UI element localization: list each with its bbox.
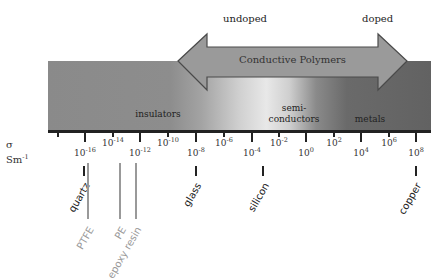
conductivity-axis (48, 130, 431, 133)
material-stem (135, 163, 137, 219)
tick-label: 104 (353, 146, 369, 158)
arrow-title: Conductive Polymers (207, 54, 378, 65)
tick-label: 10-10 (157, 136, 179, 148)
axis-tick (415, 132, 417, 142)
region-metals: metals (340, 114, 400, 125)
undoped-label: undoped (223, 13, 267, 24)
tick-label: 106 (381, 136, 397, 148)
tick-label: 10-12 (129, 146, 151, 158)
units-exp: -1 (22, 153, 28, 161)
axis-tick (57, 132, 59, 137)
material-stem (195, 166, 197, 176)
sigma-symbol: σ (6, 139, 13, 150)
region-semi-top: semi- (254, 103, 334, 114)
tick-label: 10-4 (243, 146, 261, 158)
axis-tick (305, 132, 307, 142)
tick-label: 10-16 (74, 146, 96, 158)
material-stem (83, 166, 85, 176)
axis-tick (84, 132, 86, 142)
axis-tick (251, 132, 253, 142)
material-stem (119, 163, 121, 219)
material-stem (87, 163, 89, 219)
units-base: Sm (6, 154, 22, 165)
axis-tick (195, 132, 197, 142)
region-semi-bottom: conductors (254, 114, 334, 125)
doped-label: doped (362, 13, 393, 24)
material-stem (262, 166, 264, 176)
tick-label: 10-14 (102, 136, 124, 148)
tick-label: 10-8 (187, 146, 205, 158)
tick-label: 108 (408, 146, 424, 158)
axis-tick (139, 132, 141, 142)
axis-tick (360, 132, 362, 142)
tick-label: 102 (326, 136, 342, 148)
tick-label: 10-2 (270, 136, 288, 148)
region-insulators: insulators (118, 109, 198, 120)
tick-label: 100 (298, 146, 314, 158)
tick-label: 10-6 (215, 136, 233, 148)
axis-units: Sm-1 (6, 153, 29, 165)
material-stem (415, 166, 417, 176)
